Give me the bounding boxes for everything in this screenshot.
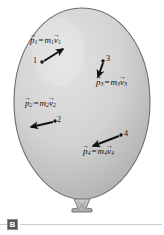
momentum-label-1: →p1=m1→v1	[30, 36, 61, 45]
momentum-label-3-vsub: 3	[124, 81, 127, 87]
momentum-label-1-equals: =	[38, 35, 45, 45]
momentum-label-4-equals: =	[91, 146, 98, 156]
particle-dot-3	[101, 59, 104, 62]
momentum-label-2: →p2=m2→v2	[25, 99, 56, 108]
momentum-label-4-vsub: 4	[111, 150, 114, 156]
momentum-label-3: →p3=m3→v3	[96, 78, 127, 87]
particle-number-2: 2	[57, 115, 61, 124]
particle-number-4: 4	[124, 129, 128, 138]
caption-rule-left	[0, 224, 7, 225]
particle-dot-4	[119, 133, 122, 136]
particle-number-1: 1	[33, 56, 37, 65]
momentum-label-1-vsub: 1	[58, 39, 61, 45]
caption-rule	[20, 224, 162, 225]
particle-dot-1	[40, 60, 43, 63]
figure-part-label: B	[7, 219, 18, 230]
momentum-label-4: →p4=m4→v4	[83, 147, 114, 156]
momentum-label-2-equals: =	[33, 98, 40, 108]
particle-number-3: 3	[106, 54, 110, 63]
balloon-graphic	[0, 0, 164, 235]
balloon-momentum-figure: →p1=m1→v1 1 →p3=m3→v3 3 →p2=m2→v2 2 →p4=…	[0, 0, 164, 235]
momentum-label-2-vsub: 2	[53, 102, 56, 108]
momentum-label-3-equals: =	[104, 77, 111, 87]
